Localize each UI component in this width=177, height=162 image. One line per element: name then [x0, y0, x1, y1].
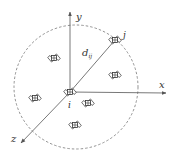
z-axis-label: z — [10, 133, 17, 144]
x-axis-label: x — [159, 79, 165, 90]
distance-label: dij — [82, 47, 92, 60]
satellite-icon — [109, 71, 122, 79]
satellite-icon — [82, 99, 95, 107]
satellite-icon — [29, 94, 42, 102]
z-axis — [21, 92, 70, 143]
distance-line-ij — [70, 40, 115, 92]
x-axis — [70, 92, 166, 93]
node-i-label: i — [68, 100, 71, 110]
satellite-icon-i — [64, 88, 77, 96]
y-axis-label: y — [75, 11, 82, 22]
satellite-icon — [69, 121, 82, 129]
node-j-label: j — [121, 30, 126, 40]
satellite-swarm-diagram: y x z i j dij — [0, 0, 177, 162]
satellite-icon — [48, 54, 61, 62]
